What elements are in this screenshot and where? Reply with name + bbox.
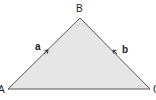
side-label-a: a: [35, 41, 41, 52]
triangle-diagram: B a b A C: [0, 0, 156, 100]
side-label-b: b: [122, 44, 128, 55]
triangle-shape: [8, 18, 150, 89]
vertex-label-c: C: [153, 84, 156, 95]
vertex-label-a: A: [0, 84, 5, 95]
vertex-label-b: B: [76, 3, 83, 14]
